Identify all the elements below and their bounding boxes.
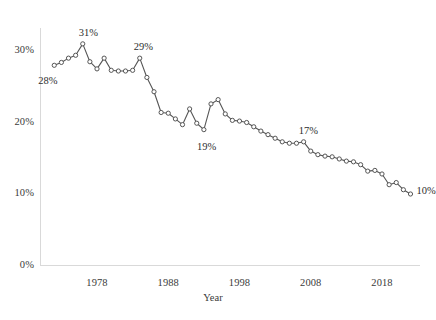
data-point-marker [116, 69, 120, 73]
data-point-marker [152, 90, 156, 94]
data-point-marker [294, 141, 298, 145]
y-axis-tick-label: 20% [0, 116, 34, 127]
data-point-marker [102, 56, 106, 60]
data-point-annotation: 29% [134, 41, 153, 52]
data-point-marker [131, 68, 135, 72]
data-point-marker [81, 42, 85, 46]
data-point-marker [188, 107, 192, 111]
data-point-marker [123, 69, 127, 73]
data-point-marker [323, 154, 327, 158]
x-axis-tick-label: 2008 [281, 277, 341, 288]
data-point-marker [180, 123, 184, 127]
data-point-marker [173, 117, 177, 121]
data-point-marker [401, 188, 405, 192]
data-point-marker [259, 129, 263, 133]
data-point-marker [408, 192, 412, 196]
data-series-line [52, 42, 412, 196]
series-markers [52, 42, 412, 196]
data-point-annotation: 10% [417, 185, 436, 196]
x-axis-tick-label: 1978 [67, 277, 127, 288]
data-point-annotation: 19% [197, 141, 216, 152]
data-point-marker [159, 110, 163, 114]
data-point-marker [373, 168, 377, 172]
x-axis-tick-label: 2018 [352, 277, 412, 288]
data-point-marker [302, 140, 306, 144]
data-point-marker [287, 141, 291, 145]
data-point-marker [138, 56, 142, 60]
data-point-marker [351, 160, 355, 164]
data-point-marker [394, 180, 398, 184]
data-point-marker [145, 75, 149, 79]
data-point-marker [316, 153, 320, 157]
data-point-marker [280, 140, 284, 144]
data-point-marker [273, 136, 277, 140]
data-point-marker [95, 67, 99, 71]
x-axis-title: Year [0, 292, 426, 303]
data-point-marker [309, 149, 313, 153]
data-point-annotation: 28% [38, 75, 57, 86]
data-point-annotation: 17% [299, 125, 318, 136]
y-axis-tick-label: 30% [0, 44, 34, 55]
y-axis-tick-label: 10% [0, 187, 34, 198]
data-point-marker [337, 157, 341, 161]
y-axis-tick-label: 0% [0, 259, 34, 270]
data-point-marker [230, 118, 234, 122]
data-point-marker [109, 68, 113, 72]
x-axis-tick-label: 1988 [138, 277, 198, 288]
data-point-marker [330, 155, 334, 159]
data-point-marker [237, 119, 241, 123]
x-axis-tick-label: 1998 [210, 277, 270, 288]
data-point-annotation: 31% [79, 27, 98, 38]
data-point-marker [202, 128, 206, 132]
data-point-marker [166, 111, 170, 115]
data-point-marker [59, 60, 63, 64]
data-point-marker [66, 56, 70, 60]
data-point-marker [223, 112, 227, 116]
data-point-marker [74, 53, 78, 57]
data-point-marker [88, 60, 92, 64]
data-point-marker [366, 169, 370, 173]
data-point-marker [216, 98, 220, 102]
data-point-marker [387, 183, 391, 187]
data-point-marker [266, 133, 270, 137]
data-point-marker [380, 172, 384, 176]
data-point-marker [209, 102, 213, 106]
data-point-marker [245, 120, 249, 124]
data-point-marker [344, 159, 348, 163]
axis-lines [40, 28, 420, 266]
data-point-marker [52, 63, 56, 67]
data-point-marker [252, 125, 256, 129]
data-point-marker [195, 121, 199, 125]
data-point-marker [359, 163, 363, 167]
